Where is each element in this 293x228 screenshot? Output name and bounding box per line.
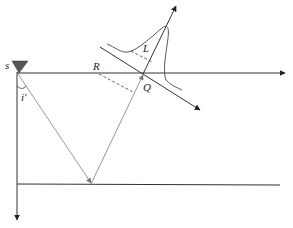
angle-arc [17, 86, 26, 89]
r-q-dashed-line [99, 74, 133, 92]
source-label: s [5, 60, 9, 71]
reflector-line [17, 184, 280, 185]
l-label: L [143, 43, 149, 54]
incident-ray [18, 74, 91, 183]
reflected-ray [91, 75, 143, 184]
wavefront-line [100, 47, 200, 110]
r-label: R [93, 61, 100, 72]
source-icon [12, 61, 28, 73]
angle-label: i' [21, 92, 26, 103]
q-label: Q [143, 82, 151, 93]
diagram-canvas [0, 0, 293, 228]
seismic-ray-diagram: s i' R Q L [0, 0, 293, 228]
